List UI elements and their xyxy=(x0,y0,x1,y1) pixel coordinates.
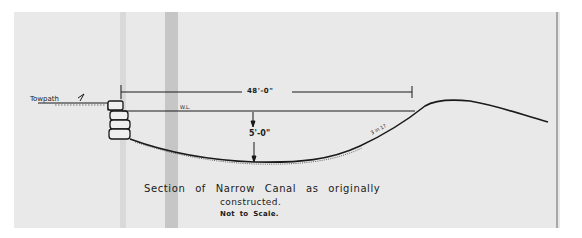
towpath-label: Towpath xyxy=(30,96,59,103)
towpath-pointer xyxy=(78,94,84,101)
canal-bed-profile xyxy=(130,100,548,162)
stone-wall xyxy=(108,101,130,139)
depth-dimension-label: 5'-0" xyxy=(249,130,270,138)
caption-scale-note: Not to Scale. xyxy=(220,211,279,218)
width-dimension-label: 48'-0" xyxy=(247,88,273,95)
caption-title: Section of Narrow Canal as originally xyxy=(144,184,380,194)
water-level-label: W.L. xyxy=(180,105,190,110)
caption-subtitle: constructed. xyxy=(220,198,281,207)
canal-section-drawing xyxy=(0,0,582,238)
